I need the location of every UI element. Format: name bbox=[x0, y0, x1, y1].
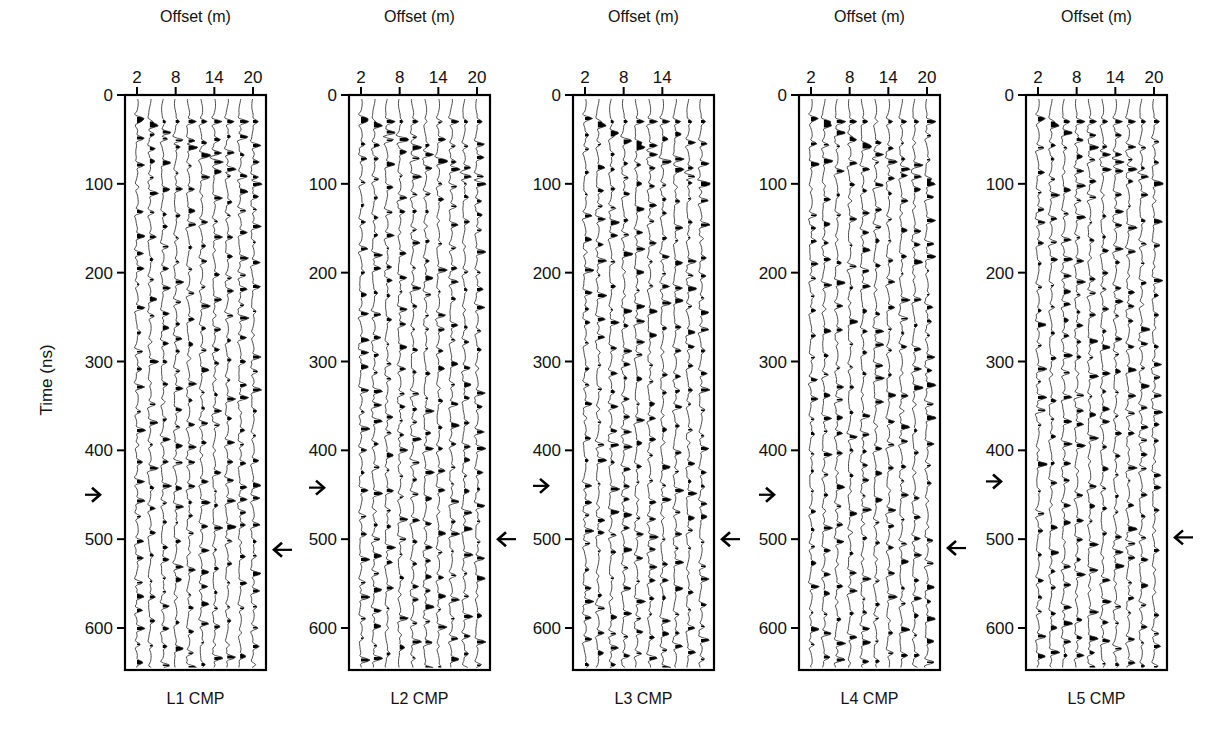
x-tick-label: 14 bbox=[879, 68, 898, 87]
y-tick-label: 200 bbox=[309, 264, 337, 283]
y-tick-label: 400 bbox=[986, 441, 1014, 460]
trace bbox=[1074, 99, 1086, 668]
panel-title: L3 CMP bbox=[615, 690, 673, 707]
cmp-panel-2: 0100200300400500600281420Offset (m)L2 CM… bbox=[309, 8, 516, 707]
x-axis-label: Offset (m) bbox=[160, 8, 231, 25]
y-tick-label: 0 bbox=[778, 86, 787, 105]
trace bbox=[659, 99, 671, 668]
panel-frame bbox=[573, 95, 714, 670]
y-tick-label: 300 bbox=[533, 353, 561, 372]
trace bbox=[1099, 99, 1111, 668]
arrow-left-icon bbox=[498, 532, 516, 546]
arrow-left-icon bbox=[1175, 530, 1193, 544]
trace bbox=[1061, 99, 1073, 668]
panel-title: L4 CMP bbox=[841, 690, 899, 707]
y-tick-label: 600 bbox=[759, 619, 787, 638]
trace bbox=[911, 99, 923, 668]
y-tick-label: 400 bbox=[533, 441, 561, 460]
y-tick-label: 600 bbox=[533, 619, 561, 638]
x-axis-label: Offset (m) bbox=[384, 8, 455, 25]
x-tick-label: 2 bbox=[132, 68, 141, 87]
trace bbox=[808, 99, 819, 668]
cmp-panel-4: 0100200300400500600281420Offset (m)L4 CM… bbox=[759, 8, 966, 707]
x-tick-label: 14 bbox=[653, 68, 672, 87]
trace bbox=[199, 99, 211, 668]
x-tick-label: 8 bbox=[845, 68, 854, 87]
trace bbox=[410, 99, 422, 668]
trace bbox=[885, 99, 897, 668]
trace bbox=[1125, 99, 1137, 668]
trace bbox=[672, 99, 684, 668]
trace bbox=[595, 99, 607, 668]
x-axis-label: Offset (m) bbox=[608, 8, 679, 25]
trace bbox=[621, 99, 633, 668]
trace bbox=[582, 99, 594, 668]
y-tick-label: 400 bbox=[85, 441, 113, 460]
y-axis-label: Time (ns) bbox=[37, 344, 56, 415]
arrow-right-icon bbox=[759, 488, 774, 502]
trace bbox=[422, 99, 434, 668]
y-tick-label: 500 bbox=[309, 530, 337, 549]
arrow-right-icon bbox=[85, 488, 100, 502]
x-tick-label: 2 bbox=[1033, 68, 1042, 87]
y-tick-label: 600 bbox=[309, 619, 337, 638]
trace bbox=[448, 99, 460, 668]
panel-title: L1 CMP bbox=[167, 690, 225, 707]
y-tick-label: 300 bbox=[759, 353, 787, 372]
panel-title: L2 CMP bbox=[391, 690, 449, 707]
panel-frame bbox=[799, 95, 940, 670]
arrow-left-icon bbox=[274, 543, 292, 557]
y-tick-label: 200 bbox=[759, 264, 787, 283]
x-tick-label: 2 bbox=[580, 68, 589, 87]
x-tick-label: 14 bbox=[205, 68, 224, 87]
trace bbox=[396, 99, 409, 668]
y-tick-label: 500 bbox=[533, 530, 561, 549]
y-tick-label: 0 bbox=[104, 86, 113, 105]
x-tick-label: 14 bbox=[429, 68, 448, 87]
arrow-left-icon bbox=[722, 532, 740, 546]
arrow-right-icon bbox=[533, 479, 548, 493]
trace bbox=[173, 99, 184, 668]
y-tick-label: 100 bbox=[759, 175, 787, 194]
trace bbox=[210, 99, 223, 668]
y-tick-label: 400 bbox=[309, 441, 337, 460]
arrow-right-icon bbox=[309, 481, 324, 495]
trace bbox=[608, 99, 620, 668]
trace bbox=[860, 99, 872, 668]
y-tick-label: 100 bbox=[533, 175, 561, 194]
x-tick-label: 8 bbox=[395, 68, 404, 87]
y-tick-label: 200 bbox=[85, 264, 113, 283]
y-tick-label: 100 bbox=[85, 175, 113, 194]
x-tick-label: 20 bbox=[1145, 68, 1164, 87]
y-tick-label: 300 bbox=[85, 353, 113, 372]
trace bbox=[646, 99, 658, 668]
arrow-left-icon bbox=[948, 541, 966, 555]
y-tick-label: 400 bbox=[759, 441, 787, 460]
x-tick-label: 2 bbox=[806, 68, 815, 87]
trace bbox=[684, 99, 697, 668]
cmp-figure: 0100200300400500600281420Offset (m)L1 CM… bbox=[0, 0, 1227, 734]
y-tick-label: 500 bbox=[986, 530, 1014, 549]
y-tick-label: 100 bbox=[309, 175, 337, 194]
y-tick-label: 500 bbox=[85, 530, 113, 549]
trace bbox=[1035, 99, 1047, 668]
x-tick-label: 8 bbox=[619, 68, 628, 87]
y-tick-label: 300 bbox=[309, 353, 337, 372]
trace bbox=[1087, 99, 1099, 668]
trace bbox=[147, 99, 159, 668]
trace bbox=[371, 99, 383, 668]
trace bbox=[898, 99, 910, 668]
y-tick-label: 100 bbox=[986, 175, 1014, 194]
y-tick-label: 500 bbox=[759, 530, 787, 549]
panel-title: L5 CMP bbox=[1068, 690, 1126, 707]
y-tick-label: 0 bbox=[328, 86, 337, 105]
arrow-right-icon bbox=[986, 474, 1001, 488]
x-tick-label: 8 bbox=[171, 68, 180, 87]
cmp-panel-1: 0100200300400500600281420Offset (m)L1 CM… bbox=[85, 8, 292, 707]
x-tick-label: 20 bbox=[468, 68, 487, 87]
y-tick-label: 300 bbox=[986, 353, 1014, 372]
y-tick-label: 600 bbox=[85, 619, 113, 638]
trace bbox=[834, 99, 846, 668]
panel-frame bbox=[349, 95, 490, 670]
trace bbox=[1048, 99, 1060, 668]
